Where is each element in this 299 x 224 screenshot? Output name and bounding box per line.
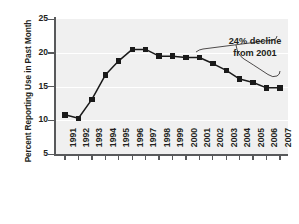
x-tick-label-1994: 1994 [109, 128, 118, 162]
x-tick-2000 [185, 155, 186, 160]
x-tick-2006 [266, 155, 267, 160]
x-tick-1995 [118, 155, 119, 160]
data-point-2001 [197, 55, 202, 60]
x-tick-label-1998: 1998 [163, 128, 172, 162]
y-tick-10 [48, 120, 54, 121]
y-tick-15 [48, 86, 54, 87]
y-tick-25 [48, 19, 54, 20]
y-tick-label-5: 5 [18, 149, 48, 158]
x-tick-label-1993: 1993 [95, 128, 104, 162]
y-axis-title: Percent Reporting Use in Past Month [23, 11, 33, 171]
y-tick-label-20: 20 [18, 48, 48, 57]
x-tick-1994 [105, 155, 106, 160]
chart-figure: Percent Reporting Use in Past Month 25 2… [0, 0, 299, 224]
y-tick-20 [48, 52, 54, 53]
x-tick-label-2006: 2006 [270, 128, 279, 162]
data-point-2002 [210, 61, 215, 66]
data-point-1997 [143, 47, 148, 52]
x-tick-label-1992: 1992 [82, 128, 91, 162]
data-point-1999 [170, 53, 175, 58]
x-tick-label-2002: 2002 [216, 128, 225, 162]
x-tick-label-2003: 2003 [230, 128, 239, 162]
data-point-1991 [62, 112, 67, 117]
x-tick-2004 [239, 155, 240, 160]
x-tick-1993 [91, 155, 92, 160]
x-tick-1991 [64, 155, 65, 160]
x-tick-label-1997: 1997 [149, 128, 158, 162]
x-tick-label-2001: 2001 [203, 128, 212, 162]
x-tick-2003 [226, 155, 227, 160]
y-tick-5 [48, 154, 54, 155]
data-point-2005 [250, 80, 255, 85]
decline-annotation-line1: 24% decline [214, 36, 296, 48]
x-tick-label-1991: 1991 [69, 128, 78, 162]
data-point-2007 [277, 85, 282, 90]
y-tick-label-10: 10 [18, 115, 48, 124]
x-tick-2001 [199, 155, 200, 160]
y-tick-label-25: 25 [18, 14, 48, 23]
x-tick-label-2007: 2007 [284, 128, 293, 162]
data-point-2003 [224, 68, 229, 73]
data-point-1996 [130, 47, 135, 52]
y-tick-label-15: 15 [18, 82, 48, 91]
x-tick-2007 [279, 155, 280, 160]
data-point-2006 [264, 85, 269, 90]
data-point-1994 [103, 72, 108, 77]
x-tick-label-1999: 1999 [176, 128, 185, 162]
x-tick-label-1995: 1995 [122, 128, 131, 162]
x-tick-2005 [252, 155, 253, 160]
data-point-2000 [183, 55, 188, 60]
decline-annotation-line2: from 2001 [214, 48, 296, 60]
x-tick-label-2000: 2000 [190, 128, 199, 162]
gridline-10 [56, 120, 288, 121]
x-tick-1998 [158, 155, 159, 160]
x-tick-1997 [145, 155, 146, 160]
x-tick-1992 [78, 155, 79, 160]
data-point-1992 [76, 116, 81, 121]
data-point-2004 [237, 76, 242, 81]
x-tick-1996 [132, 155, 133, 160]
decline-annotation: 24% decline from 2001 [214, 36, 296, 59]
x-tick-label-2004: 2004 [243, 128, 252, 162]
data-point-1993 [89, 97, 94, 102]
data-point-1998 [156, 53, 161, 58]
x-tick-label-1996: 1996 [136, 128, 145, 162]
x-tick-label-2005: 2005 [257, 128, 266, 162]
data-point-1995 [116, 58, 121, 63]
y-axis-line [54, 17, 56, 156]
x-tick-2002 [212, 155, 213, 160]
gridline-15 [56, 87, 288, 88]
x-tick-1999 [172, 155, 173, 160]
